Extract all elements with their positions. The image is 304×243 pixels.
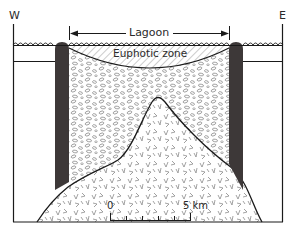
- east-reef: [229, 42, 243, 190]
- scale-start-label: 0: [107, 201, 113, 211]
- scale-end-label: 5 km: [183, 201, 208, 211]
- euphotic-zone-label: Euphotic zone: [113, 48, 187, 59]
- lagoon-label: Lagoon: [129, 27, 169, 38]
- west-reef: [55, 42, 69, 190]
- east-label: E: [279, 10, 286, 21]
- water-waves: [13, 43, 283, 45]
- west-label: W: [9, 10, 20, 21]
